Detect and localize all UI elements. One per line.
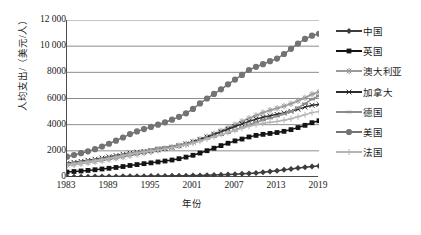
legend-marker-icon [336, 86, 362, 98]
data-point-plus [316, 109, 319, 115]
data-point-square [247, 135, 252, 140]
data-point-circle [190, 106, 196, 112]
legend-item-1[interactable]: 英国 [336, 41, 421, 61]
data-point-square [170, 158, 175, 163]
data-point-diamond [232, 171, 238, 177]
legend-item-3[interactable]: 加拿大 [336, 82, 421, 102]
data-point-star [274, 105, 280, 111]
data-point-dash [281, 113, 287, 115]
data-point-diamond [253, 170, 259, 176]
data-point-square [67, 170, 69, 175]
data-point-square [198, 151, 203, 156]
legend-item-5[interactable]: 美国 [336, 122, 421, 142]
data-point-plus [274, 118, 280, 124]
legend-label: 中国 [363, 24, 383, 38]
legend-label: 澳大利亚 [363, 64, 402, 78]
data-point-plus [302, 112, 308, 118]
data-point-plus [346, 149, 352, 155]
data-point-circle [267, 58, 273, 64]
data-point-square [72, 169, 77, 174]
data-point-square [107, 166, 112, 171]
y-tick-label: 4000 [20, 120, 66, 130]
x-tick-label: 1983 [46, 180, 86, 190]
data-point-square [296, 125, 301, 130]
legend-marker-icon [336, 25, 362, 37]
data-point-star [302, 95, 308, 101]
data-point-square [226, 141, 231, 146]
data-point-square [282, 129, 287, 134]
data-point-dash [295, 106, 301, 108]
data-point-square [317, 118, 319, 123]
legend-item-6[interactable]: 法国 [336, 142, 421, 162]
x-axis-tick-labels: 1983198919952001200720132019 [0, 180, 421, 196]
legend-label: 法国 [363, 145, 383, 159]
plot-area [66, 20, 318, 177]
data-point-diamond [295, 165, 301, 171]
data-point-square [347, 49, 352, 54]
data-point-diamond [316, 163, 319, 169]
data-point-circle [148, 124, 154, 130]
data-point-square [149, 160, 154, 165]
data-point-plus [295, 114, 301, 120]
x-tick-label: 2019 [298, 180, 338, 190]
data-point-diamond [99, 174, 105, 177]
y-axis-tick-labels: 0200040006000800010 00012 000 [14, 0, 66, 235]
x-tick-label: 1989 [88, 180, 128, 190]
data-point-circle [288, 46, 294, 52]
data-point-circle [113, 138, 119, 144]
data-point-diamond [78, 174, 84, 177]
data-point-diamond [218, 172, 224, 177]
data-point-circle [169, 117, 175, 123]
data-point-diamond [190, 173, 196, 177]
data-point-diamond [155, 173, 161, 177]
data-point-circle [78, 150, 84, 156]
data-point-circle [239, 72, 245, 78]
data-point-diamond [120, 173, 126, 177]
data-point-square [93, 167, 98, 172]
data-point-star [346, 68, 352, 74]
data-point-circle [302, 36, 308, 42]
legend-marker-icon [336, 126, 362, 138]
data-point-diamond [346, 28, 352, 34]
data-point-square [121, 164, 126, 169]
data-point-dash [288, 110, 294, 112]
data-point-square [100, 167, 105, 172]
legend-item-0[interactable]: 中国 [336, 21, 421, 41]
data-point-circle [253, 64, 259, 70]
data-point-circle [120, 134, 126, 140]
data-point-dash [302, 103, 308, 105]
legend-label: 德国 [363, 105, 383, 119]
series-0 [67, 163, 319, 177]
data-point-square [268, 131, 273, 136]
y-tick-label: 2000 [20, 146, 66, 156]
data-point-diamond [134, 173, 140, 177]
y-tick-label: 10 000 [20, 41, 66, 51]
data-point-diamond [92, 174, 98, 177]
y-tick-label: 6000 [20, 94, 66, 104]
data-point-square [86, 168, 91, 173]
legend-marker-icon [336, 146, 362, 158]
data-point-square [303, 123, 308, 128]
data-point-square [128, 163, 133, 168]
x-axis-title: 年份 [66, 196, 318, 210]
data-point-dash [267, 117, 273, 119]
data-point-star [295, 98, 301, 104]
data-point-diamond [309, 164, 315, 170]
data-point-square [233, 138, 238, 143]
data-point-diamond [197, 172, 203, 177]
data-point-square [142, 161, 147, 166]
legend-label: 美国 [363, 125, 383, 139]
data-point-square [191, 153, 196, 158]
legend-item-4[interactable]: 德国 [336, 102, 421, 122]
legend-item-2[interactable]: 澳大利亚 [336, 61, 421, 81]
data-point-diamond [176, 173, 182, 177]
data-point-dash [346, 111, 352, 113]
data-point-diamond [246, 170, 252, 176]
data-point-circle [281, 51, 287, 57]
data-point-diamond [106, 173, 112, 177]
plot-svg [67, 20, 319, 177]
data-point-plus [281, 117, 287, 123]
data-point-star [288, 101, 294, 107]
data-point-plus [309, 110, 315, 116]
data-point-circle [85, 148, 91, 154]
